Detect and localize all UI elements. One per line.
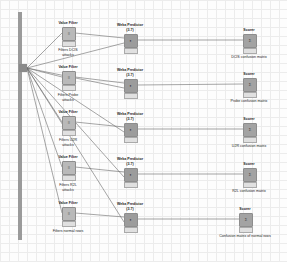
predictor-2-version: (3.7)	[126, 73, 133, 77]
filter-3-title: Value Filter	[58, 110, 77, 114]
scorer-2-caption: Probe confusion matrix	[231, 99, 268, 104]
scorer-3-caption: U2R confusion matrix	[232, 144, 266, 149]
scorer-3-node[interactable]: Σ	[243, 123, 257, 137]
scorer-4-caption: R2L confusion matrix	[232, 189, 266, 194]
predictor-icon: ◐	[130, 38, 132, 43]
predictor-3-node[interactable]: ◐	[124, 123, 138, 137]
predictor-5-node[interactable]: ◐	[124, 213, 138, 227]
filter-4-status	[62, 175, 76, 181]
filter-5-node[interactable]: ≡	[62, 207, 76, 221]
filter-1-node[interactable]: ≡	[62, 27, 76, 41]
filter-icon: ≡	[68, 31, 70, 36]
predictor-1-status	[124, 48, 138, 54]
filter-1-title: Value Filter	[58, 21, 77, 25]
filter-2-node[interactable]: ≡	[62, 71, 76, 85]
predictor-2-node[interactable]: ◐	[124, 79, 138, 93]
filter-3-node[interactable]: ≡	[62, 116, 76, 130]
filter-4-caption: Filters R2Lattacks	[59, 183, 76, 192]
scorer-5-status	[239, 227, 253, 233]
scorer-3-title: Scorer	[243, 117, 254, 121]
filter-4-node[interactable]: ≡	[62, 161, 76, 175]
predictor-1-node[interactable]: ◐	[124, 34, 138, 48]
scorer-icon: Σ	[249, 82, 251, 87]
predictor-5-title: Weka Predictor	[117, 202, 143, 206]
metanode-bar	[18, 12, 22, 240]
scorer-icon: Σ	[249, 172, 251, 177]
predictor-icon: ◐	[130, 217, 132, 222]
scorer-2-title: Scorer	[243, 72, 254, 76]
workflow-canvas[interactable]: Value Filter ≡ Filters DCISattacks Value…	[0, 0, 287, 262]
predictor-icon: ◐	[130, 172, 132, 177]
predictor-4-title: Weka Predictor	[117, 157, 143, 161]
scorer-icon: Σ	[249, 127, 251, 132]
filter-2-status	[62, 85, 76, 91]
filter-2-caption: Filters Probeattacks	[58, 93, 78, 102]
scorer-5-caption: Confusion matrix of normal rows	[219, 234, 271, 239]
predictor-5-status	[124, 227, 138, 233]
predictor-4-status	[124, 182, 138, 188]
scorer-2-node[interactable]: Σ	[243, 78, 257, 92]
predictor-icon: ◐	[130, 127, 132, 132]
scorer-4-node[interactable]: Σ	[243, 168, 257, 182]
scorer-5-node[interactable]: Σ	[239, 213, 253, 227]
filter-icon: ≡	[68, 75, 70, 80]
filter-3-status	[62, 130, 76, 136]
scorer-icon: Σ	[249, 38, 251, 43]
scorer-4-status	[243, 182, 257, 188]
filter-5-caption: Filters normal rows	[53, 229, 83, 234]
predictor-3-version: (3.7)	[126, 117, 133, 121]
predictor-2-status	[124, 93, 138, 99]
predictor-5-version: (3.7)	[126, 207, 133, 211]
scorer-icon: Σ	[245, 217, 247, 222]
predictor-4-version: (3.7)	[126, 162, 133, 166]
metanode-output-port[interactable]	[19, 64, 27, 72]
filter-icon: ≡	[68, 165, 70, 170]
filter-icon: ≡	[68, 211, 70, 216]
predictor-3-title: Weka Predictor	[117, 112, 143, 116]
filter-5-status	[62, 221, 76, 227]
predictor-2-title: Weka Predictor	[117, 68, 143, 72]
filter-4-title: Value Filter	[58, 155, 77, 159]
filter-5-title: Value Filter	[58, 201, 77, 205]
filter-3-caption: Filters U2Rattacks	[59, 138, 77, 147]
filter-icon: ≡	[68, 120, 70, 125]
scorer-1-status	[243, 48, 257, 54]
filter-1-status	[62, 41, 76, 47]
scorer-1-node[interactable]: Σ	[243, 34, 257, 48]
predictor-4-node[interactable]: ◐	[124, 168, 138, 182]
scorer-2-status	[243, 92, 257, 98]
predictor-3-status	[124, 137, 138, 143]
scorer-4-title: Scorer	[243, 162, 254, 166]
predictor-1-title: Weka Predictor	[117, 23, 143, 27]
scorer-1-title: Scorer	[243, 28, 254, 32]
predictor-icon: ◐	[130, 83, 132, 88]
filter-1-caption: Filters DCISattacks	[58, 48, 77, 57]
predictor-1-version: (3.7)	[126, 28, 133, 32]
filter-2-title: Value Filter	[58, 65, 77, 69]
scorer-1-caption: DCIS confusion matrix	[231, 55, 267, 60]
scorer-5-title: Scorer	[239, 207, 250, 211]
scorer-3-status	[243, 137, 257, 143]
